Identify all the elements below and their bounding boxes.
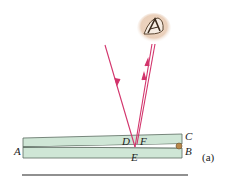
eye-icon bbox=[137, 13, 171, 43]
figure-caption: (a) bbox=[202, 151, 215, 164]
label-d: D bbox=[121, 135, 130, 147]
label-e: E bbox=[130, 151, 138, 163]
spacer-wire bbox=[176, 143, 182, 149]
label-a: A bbox=[13, 145, 21, 157]
air-wedge-diagram: A D F E C B (a) bbox=[0, 0, 230, 177]
bottom-glass-plate bbox=[23, 147, 182, 158]
incident-ray bbox=[105, 45, 135, 147]
label-f: F bbox=[139, 135, 147, 147]
reflected-rays bbox=[135, 44, 155, 147]
label-b: B bbox=[185, 145, 192, 157]
label-c: C bbox=[185, 130, 193, 142]
